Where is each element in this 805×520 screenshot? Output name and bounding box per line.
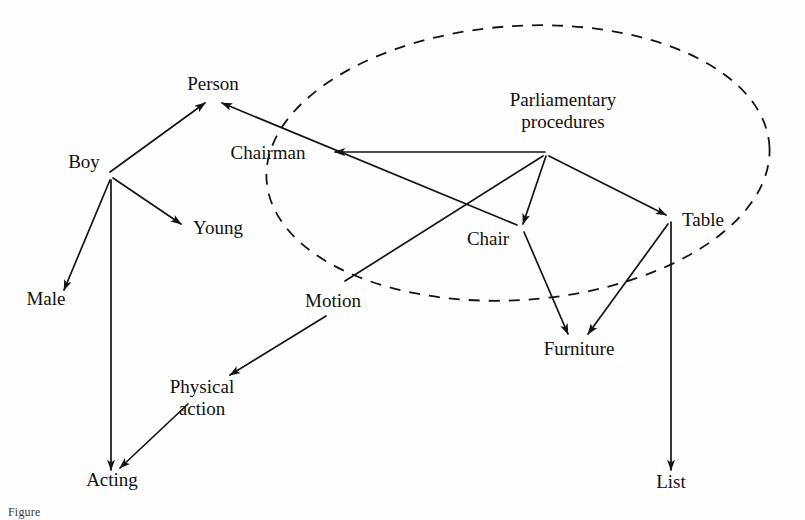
parliamentary-procedures-region <box>257 9 779 317</box>
edge-chair-to-person <box>222 103 517 225</box>
node-label-person[interactable]: Person <box>187 73 239 94</box>
node-label-acting[interactable]: Acting <box>86 469 138 490</box>
node-label-line: Parliamentary <box>510 89 617 110</box>
node-label-line: Physical <box>170 376 234 397</box>
node-label-line: Motion <box>305 290 361 311</box>
node-label-motion[interactable]: Motion <box>305 290 361 311</box>
edge-chair-to-furniture <box>524 232 568 334</box>
edge-motion-to-parliamentary <box>345 156 543 281</box>
figure-caption: Figure <box>8 505 41 520</box>
node-label-line: Person <box>187 73 239 94</box>
node-label-line: Acting <box>86 469 138 490</box>
node-label-table[interactable]: Table <box>682 209 724 230</box>
edge-parliamentary-to-table <box>549 156 666 215</box>
node-label-line: Table <box>682 209 724 230</box>
edge-boy-to-person <box>110 103 205 172</box>
node-label-line: Boy <box>68 151 100 172</box>
edge-motion-to-physical_action <box>230 316 326 375</box>
edge-layer <box>64 103 671 470</box>
node-label-parliamentary[interactable]: Parliamentaryprocedures <box>510 89 617 132</box>
node-label-young[interactable]: Young <box>193 217 243 238</box>
node-label-furniture[interactable]: Furniture <box>544 338 615 359</box>
edge-boy-to-male <box>64 180 110 290</box>
node-label-line: procedures <box>521 111 604 132</box>
node-label-line: Young <box>193 217 243 238</box>
node-label-line: Chairman <box>231 142 306 163</box>
node-label-line: Furniture <box>544 338 615 359</box>
node-label-chairman[interactable]: Chairman <box>231 142 306 163</box>
node-label-boy[interactable]: Boy <box>68 151 100 172</box>
node-label-physical_action[interactable]: Physicalaction <box>170 376 234 419</box>
node-label-list[interactable]: List <box>656 471 686 492</box>
node-label-chair[interactable]: Chair <box>467 228 510 249</box>
node-label-line: List <box>656 471 686 492</box>
edge-boy-to-young <box>113 178 181 224</box>
node-label-line: Male <box>26 288 65 309</box>
edge-table-to-furniture <box>588 224 668 334</box>
node-label-line: action <box>179 398 226 419</box>
node-label-line: Chair <box>467 228 510 249</box>
node-label-male[interactable]: Male <box>26 288 65 309</box>
